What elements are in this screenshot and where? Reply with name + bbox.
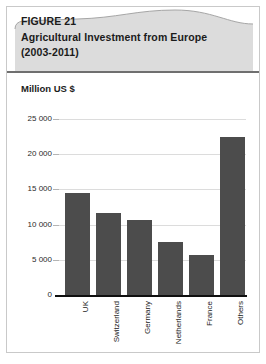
- figure-card: FIGURE 21 Agricultural Investment from E…: [6, 6, 260, 353]
- y-tick-label: 10 000: [6, 220, 52, 229]
- y-tick-label: 20 000: [6, 149, 52, 158]
- bar: [65, 193, 90, 295]
- figure-title: Agricultural Investment from Europe: [21, 30, 246, 46]
- x-axis-line: [55, 295, 247, 297]
- bar: [158, 242, 183, 295]
- figure-header-band: FIGURE 21 Agricultural Investment from E…: [7, 7, 260, 73]
- figure-period: (2003-2011): [21, 45, 246, 61]
- y-tick-label: 0: [6, 290, 52, 299]
- figure-header-text: FIGURE 21 Agricultural Investment from E…: [21, 14, 246, 61]
- tick-mark: [53, 225, 59, 226]
- figure-number: FIGURE 21: [21, 14, 246, 30]
- y-tick-label: 5 000: [6, 255, 52, 264]
- gridline: [59, 154, 246, 155]
- gridline: [59, 119, 246, 120]
- chart-area: Million US $ 05 00010 00015 00020 00025 …: [7, 73, 260, 353]
- tick-mark: [53, 189, 59, 190]
- x-category-label: UK: [81, 301, 90, 312]
- plot-region: 05 00010 00015 00020 00025 000 UKSwitzer…: [7, 73, 260, 353]
- bar: [189, 255, 214, 295]
- gridline: [59, 189, 246, 190]
- y-tick-label: 15 000: [6, 184, 52, 193]
- x-category-label: France: [205, 301, 214, 326]
- bar: [127, 220, 152, 295]
- tick-mark: [53, 154, 59, 155]
- tick-mark: [53, 260, 59, 261]
- x-category-label: Others: [236, 301, 245, 325]
- x-category-label: Netherlands: [174, 301, 183, 344]
- tick-mark: [53, 119, 59, 120]
- y-tick-label: 25 000: [6, 114, 52, 123]
- header-divider: [7, 71, 260, 73]
- x-category-label: Switzerland: [112, 301, 121, 342]
- bar: [220, 137, 245, 295]
- bar: [96, 213, 121, 295]
- x-category-label: Germany: [143, 301, 152, 334]
